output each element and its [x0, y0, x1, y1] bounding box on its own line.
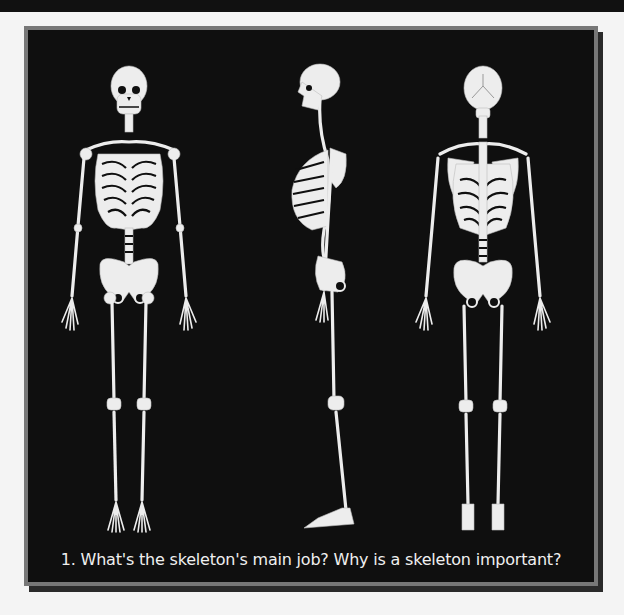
skeleton-front-view: [62, 66, 196, 532]
skeleton-panel: 1. What's the skeleton's main job? Why i…: [28, 30, 594, 582]
top-strip: [0, 0, 624, 12]
question-caption: 1. What's the skeleton's main job? Why i…: [28, 550, 594, 569]
skeleton-back-view: [416, 66, 550, 530]
image-frame: 1. What's the skeleton's main job? Why i…: [24, 26, 598, 586]
skeleton-side-view: [292, 64, 354, 528]
